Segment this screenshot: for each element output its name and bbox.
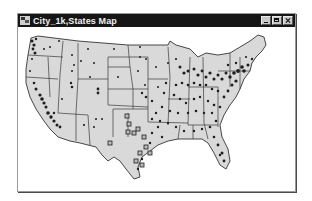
map-window[interactable]: City_1k,States Map xyxy=(17,13,296,192)
window-title: City_1k,States Map xyxy=(33,16,117,26)
close-button[interactable] xyxy=(283,16,293,25)
minimize-button[interactable] xyxy=(261,16,271,25)
us-states-map[interactable] xyxy=(18,27,295,191)
map-canvas[interactable] xyxy=(18,27,295,191)
maximize-button[interactable] xyxy=(272,16,282,25)
title-bar[interactable]: City_1k,States Map xyxy=(18,14,295,27)
map-document-icon[interactable] xyxy=(20,16,30,25)
window-controls xyxy=(261,16,293,25)
